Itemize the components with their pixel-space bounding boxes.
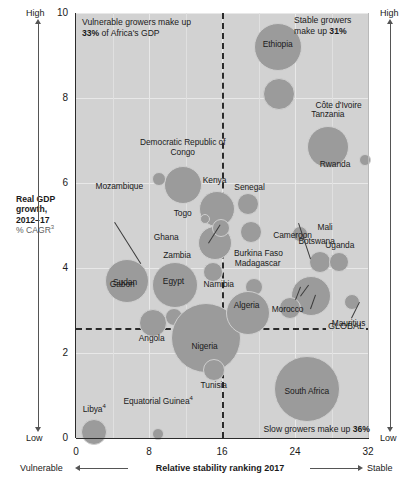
bubble-label-south-africa: South Africa (285, 387, 330, 397)
right-axis-high-label: High (380, 8, 399, 18)
bubble-chart: 0246810 08162432 Real GDP growth, 2012–1… (0, 0, 411, 482)
x-tick-label: 0 (61, 447, 91, 457)
bubble-libya[interactable] (81, 419, 107, 445)
y-tick-label: 0 (40, 433, 68, 443)
right-axis-arrow-up (387, 19, 393, 24)
bottom-left-arrow-head (75, 465, 80, 471)
left-axis-low-label: Low (26, 433, 43, 443)
y-axis-title-line2: growth, (16, 204, 74, 214)
gridline-vertical-minor (186, 13, 187, 438)
callout-slow-growers: Slow growers make up 36% (228, 424, 370, 435)
bubble-label-nigeria: Nigeria (191, 342, 217, 352)
x-axis-line (76, 438, 369, 439)
right-axis-arrow-down (387, 427, 393, 432)
y-tick-label: 2 (40, 348, 68, 358)
left-axis-arrow-up (35, 19, 41, 24)
bubble-label-angola: Angola (139, 334, 165, 344)
left-axis-high-label: High (26, 8, 45, 18)
bubble-label-mauritius: Mauritius (332, 319, 366, 329)
bubble-label-algeria: Algeria (234, 301, 260, 311)
x-axis-title: Relative stability ranking 2017 (140, 463, 300, 473)
bubble-label-libya: Libya4 (83, 405, 106, 415)
bubble-uganda[interactable] (329, 252, 349, 272)
left-axis-arrow-shaft (38, 24, 39, 428)
bubble-label-tanzania: Tanzania (311, 110, 344, 120)
left-axis-arrow-down (35, 427, 41, 432)
y-axis-title-line3: 2012–17 (16, 215, 74, 225)
right-axis-low-label: Low (380, 433, 397, 443)
y-tick-label: 4 (40, 263, 68, 273)
bubble-tunisia[interactable] (203, 359, 225, 381)
gridline-vertical (149, 13, 150, 438)
plot-right-border (368, 13, 369, 438)
bubble-senegal[interactable] (237, 193, 259, 215)
bubble-label-tunisia: Tunisia (201, 381, 227, 391)
bubble-label-senegal: Senegal (234, 183, 264, 193)
bubble-togo[interactable] (200, 214, 210, 224)
bubble-label-zambia: Zambia (163, 251, 191, 261)
bubble-label-togo: Togo (174, 209, 192, 219)
bubble-label-ethiopia: Ethiopia (263, 40, 293, 50)
right-axis-arrow-shaft (390, 24, 391, 428)
bubble-label-equatorial-guinea: Equatorial Guinea4 (112, 397, 204, 407)
y-axis-title-line1: Real GDP (16, 194, 74, 204)
y-axis-line (75, 13, 76, 438)
bottom-stable-label: Stable (367, 463, 393, 473)
bubble-democratic-republic-of-congo[interactable] (164, 166, 202, 204)
y-axis-unit: % CAGR3 (16, 225, 74, 235)
gridline-vertical-minor (113, 13, 114, 438)
y-tick-label: 8 (40, 93, 68, 103)
bubble-label-gabon: Gabon (110, 280, 135, 290)
bubble-label-madagascar: Madagascar (235, 259, 281, 269)
bottom-right-arrow-head (358, 465, 363, 471)
bubble-rwanda[interactable] (359, 154, 371, 166)
bubble-botswana[interactable] (309, 251, 331, 273)
bubble-label-mali: Mali (317, 223, 332, 233)
y-axis-title: Real GDP growth, 2012–17 % CAGR3 (16, 194, 74, 236)
callout-stable-growers: Stable growers make up 31% (294, 15, 368, 37)
bubble-label-mozambique: Mozambique (96, 182, 143, 192)
bubble-label-ghana: Ghana (154, 233, 179, 243)
x-tick-label: 32 (353, 447, 383, 457)
bubble-algeria[interactable] (226, 291, 270, 335)
bubble-label-uganda: Uganda (325, 241, 354, 251)
x-tick-label: 24 (280, 447, 310, 457)
bubble-label-egypt: Egypt (163, 277, 184, 287)
callout-vulnerable-growers: Vulnerable growers make up 33% of Africa… (82, 17, 232, 39)
bottom-vulnerable-label: Vulnerable (20, 463, 63, 473)
x-tick-label: 8 (134, 447, 164, 457)
bubble-label-kenya: Kenya (203, 176, 227, 186)
bottom-right-arrow-shaft (310, 468, 358, 469)
y-tick-label: 6 (40, 178, 68, 188)
bubble-mozambique[interactable] (152, 172, 166, 186)
bubble-label-namibia: Namibia (204, 280, 234, 290)
bubble-label-rwanda: Rwanda (320, 160, 350, 170)
bottom-left-arrow-shaft (80, 468, 128, 469)
bubble-c-te-d-ivoire[interactable] (263, 78, 295, 110)
bubble-cameroon[interactable] (240, 221, 262, 243)
x-tick-label: 16 (207, 447, 237, 457)
bubble-label-morocco: Morocco (272, 305, 304, 315)
bubble-label-democratic-republic-of-congo: Democratic Republic of Congo (137, 138, 229, 157)
